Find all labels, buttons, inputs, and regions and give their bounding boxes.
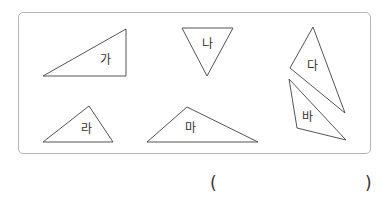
triangle-ra-label: 라 [81, 122, 92, 136]
triangle-ma-label: 마 [185, 121, 196, 135]
answer-blank[interactable] [222, 173, 362, 195]
triangle-ra: 라 [43, 106, 113, 142]
answer-open-paren: ( [210, 173, 217, 193]
triangle-da-label: 다 [307, 59, 318, 73]
triangle-ma-shape [147, 107, 258, 142]
triangle-ga-label: 가 [100, 53, 111, 67]
triangle-ba-label: 바 [302, 110, 313, 124]
triangle-ga: 가 [43, 29, 126, 76]
triangle-da: 다 [290, 27, 345, 113]
triangle-ra-shape [43, 106, 113, 142]
triangle-na-label: 나 [202, 37, 213, 51]
triangle-ba-shape [289, 79, 346, 140]
triangles-diagram: 가 나 다 라 마 바 [0, 0, 381, 200]
triangle-da-shape [290, 27, 345, 113]
triangle-na-shape [182, 28, 233, 76]
triangle-ga-shape [43, 29, 126, 76]
triangle-ma: 마 [147, 107, 258, 142]
answer-close-paren: ) [365, 173, 372, 193]
triangle-na: 나 [182, 28, 233, 76]
triangle-ba: 바 [289, 79, 346, 140]
